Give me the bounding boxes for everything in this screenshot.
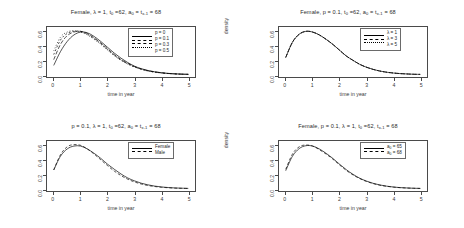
- legend-line-sample: [132, 43, 152, 44]
- legend-line-sample: [132, 148, 152, 149]
- y-tick-label: 0.6: [37, 31, 43, 45]
- legend-line-sample: [364, 151, 384, 152]
- y-axis-label: density: [223, 0, 229, 52]
- x-tick-mark: [107, 192, 108, 195]
- legend-labels: FemaleMale: [155, 145, 170, 156]
- x-tick-label: 2: [106, 82, 109, 88]
- x-tick-mark: [53, 192, 54, 195]
- x-tick-label: 3: [365, 196, 368, 202]
- x-tick-mark: [421, 78, 422, 81]
- y-tick-label: 0.6: [37, 145, 43, 159]
- x-tick-label: 1: [311, 82, 314, 88]
- legend-line-sample: [364, 35, 384, 36]
- x-tick-label: 2: [338, 196, 341, 202]
- x-tick-mark: [107, 78, 108, 81]
- x-tick-label: 4: [392, 82, 395, 88]
- x-tick-mark: [162, 78, 163, 81]
- legend-label: a0 = 68: [387, 151, 402, 156]
- x-tick-label: 3: [133, 196, 136, 202]
- x-axis-label: time in year: [278, 205, 428, 211]
- x-tick-label: 0: [283, 82, 286, 88]
- x-tick-mark: [367, 78, 368, 81]
- x-tick-mark: [189, 192, 190, 195]
- x-tick-mark: [189, 78, 190, 81]
- plot-panel-bottom-right: Female, p = 0.1, λ = 1, t0 =62, tx-1 = 6…: [232, 114, 464, 228]
- plot-legend: FemaleMale: [128, 142, 174, 159]
- plot-title: p = 0.1, λ = 1, t0 =62, a0 = tx-1 = 68: [0, 123, 232, 129]
- x-tick-mark: [339, 192, 340, 195]
- y-tick-label: 0.2: [37, 175, 43, 189]
- y-tick-label: 0.4: [269, 46, 275, 60]
- legend-line-sample: [364, 39, 384, 40]
- x-axis-label: time in year: [46, 91, 196, 97]
- legend-labels: p = 0p = 0.1p = 0.3p = 0.5: [155, 31, 169, 54]
- plot-title: Female, λ = 1, t0 =62, a0 = tx-1 = 68: [0, 9, 232, 15]
- x-tick-mark: [135, 78, 136, 81]
- legend-keys: [132, 36, 152, 48]
- plot-panel-top-left: Female, λ = 1, t0 =62, a0 = tx-1 = 68den…: [0, 0, 232, 114]
- legend-label: p = 0: [155, 31, 169, 36]
- legend-line-sample: [132, 47, 152, 48]
- y-tick-label: 0.4: [37, 46, 43, 60]
- legend-label: p = 0.5: [155, 49, 169, 54]
- legend-label: p = 0.1: [155, 37, 169, 42]
- y-tick-label: 0.2: [37, 61, 43, 75]
- y-tick-label: 0.0: [269, 76, 275, 90]
- plot-legend: p = 0p = 0.1p = 0.3p = 0.5: [128, 28, 173, 57]
- figure-grid: Female, λ = 1, t0 =62, a0 = tx-1 = 68den…: [0, 0, 464, 228]
- y-tick-label: 0.6: [269, 31, 275, 45]
- plot-area: [46, 26, 196, 78]
- x-tick-mark: [421, 192, 422, 195]
- plot-legend: a0 = 65a0 = 68: [360, 142, 406, 159]
- y-tick-label: 0.4: [269, 160, 275, 174]
- x-tick-label: 0: [283, 196, 286, 202]
- x-tick-label: 0: [51, 196, 54, 202]
- x-tick-mark: [394, 192, 395, 195]
- x-tick-label: 3: [133, 82, 136, 88]
- plot-area: [278, 26, 428, 78]
- x-axis-label: time in year: [46, 205, 196, 211]
- x-tick-label: 5: [420, 82, 423, 88]
- plot-title: Female, p = 0.1, t0 =62, a0 = tx-1 = 68: [232, 9, 464, 15]
- x-tick-label: 5: [420, 196, 423, 202]
- x-tick-mark: [312, 192, 313, 195]
- y-tick-label: 0.0: [37, 190, 43, 204]
- y-tick-label: 0.2: [269, 175, 275, 189]
- legend-label: Female: [155, 145, 170, 150]
- legend-label: λ = 3: [387, 37, 397, 42]
- x-tick-mark: [285, 78, 286, 81]
- y-tick-label: 0.6: [269, 145, 275, 159]
- legend-labels: a0 = 65a0 = 68: [387, 145, 402, 156]
- legend-line-sample: [132, 151, 152, 152]
- legend-labels: λ = 1λ = 3λ = 5: [387, 31, 397, 48]
- legend-label: a0 = 65: [387, 145, 402, 150]
- legend-label: Male: [155, 151, 170, 156]
- legend-line-sample: [364, 148, 384, 149]
- x-tick-mark: [162, 192, 163, 195]
- x-tick-mark: [367, 192, 368, 195]
- legend-label: p = 0.3: [155, 43, 169, 48]
- x-tick-mark: [80, 192, 81, 195]
- x-tick-label: 3: [365, 82, 368, 88]
- legend-line-sample: [364, 42, 384, 43]
- x-tick-label: 1: [79, 196, 82, 202]
- legend-line-sample: [132, 36, 152, 37]
- x-tick-mark: [312, 78, 313, 81]
- plot-panel-bottom-left: p = 0.1, λ = 1, t0 =62, a0 = tx-1 = 68de…: [0, 114, 232, 228]
- legend-label: λ = 5: [387, 43, 397, 48]
- y-tick-label: 0.4: [37, 160, 43, 174]
- x-tick-label: 0: [51, 82, 54, 88]
- x-tick-label: 1: [79, 82, 82, 88]
- y-tick-label: 0.2: [269, 61, 275, 75]
- y-tick-label: 0.0: [269, 190, 275, 204]
- plot-panel-top-right: Female, p = 0.1, t0 =62, a0 = tx-1 = 68d…: [232, 0, 464, 114]
- legend-label: λ = 1: [387, 31, 397, 36]
- x-tick-label: 5: [188, 196, 191, 202]
- x-tick-label: 4: [160, 82, 163, 88]
- plot-legend: λ = 1λ = 3λ = 5: [360, 28, 401, 51]
- plot-title: Female, p = 0.1, λ = 1, t0 =62, tx-1 = 6…: [232, 123, 464, 129]
- x-tick-label: 2: [338, 82, 341, 88]
- x-tick-mark: [339, 78, 340, 81]
- x-tick-label: 1: [311, 196, 314, 202]
- legend-keys: [364, 35, 384, 43]
